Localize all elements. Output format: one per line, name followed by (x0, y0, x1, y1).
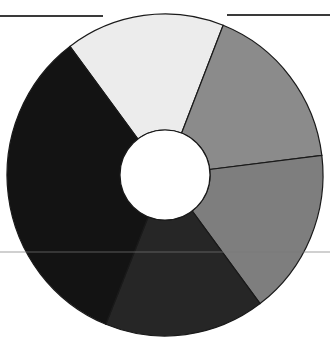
donut-chart (0, 0, 330, 343)
donut-hole (120, 130, 210, 220)
scan-artifact-line (0, 251, 330, 253)
